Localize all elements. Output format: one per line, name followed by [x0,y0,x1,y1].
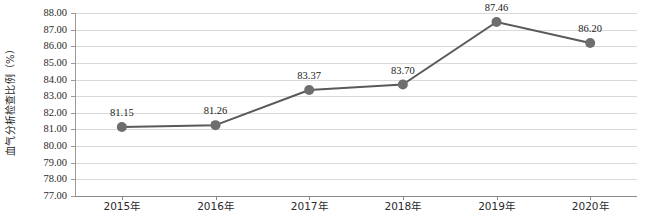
data-point-label: 81.26 [204,106,228,117]
y-tick-label: 84.00 [43,74,67,85]
y-tick-label: 78.00 [43,174,67,185]
data-point-marker [304,85,314,95]
x-tick-label: 2018年 [384,201,421,212]
y-axis-title: 血气分析检查比例（%） [0,0,22,200]
data-point-label: 83.70 [391,65,415,76]
plot-area: 81.1581.2683.3783.7087.4686.20 [75,13,637,196]
series-markers [117,17,595,132]
x-tick-label: 2020年 [572,201,609,212]
data-point-marker [398,80,408,90]
x-tick-label: 2019年 [478,201,515,212]
series-polyline [122,22,590,127]
x-tick-label: 2016年 [197,201,234,212]
data-point-marker [117,122,127,132]
data-point-marker [585,38,595,48]
y-tick-label: 82.00 [43,108,67,119]
x-tick-label: 2015年 [103,201,140,212]
y-tick-label: 86.00 [43,41,67,52]
x-axis-line [75,196,637,197]
data-point-marker [492,17,502,27]
y-tick-label: 81.00 [43,124,67,135]
data-point-label: 81.15 [110,107,134,118]
y-tick-label: 83.00 [43,91,67,102]
x-tick-label: 2017年 [291,201,328,212]
y-axis-tick-labels: 88.0087.0086.0085.0084.0083.0082.0081.00… [22,0,71,223]
data-point-label: 87.46 [485,2,509,13]
series-line-chart [75,13,637,196]
y-tick-mark [71,196,75,197]
y-tick-label: 88.00 [43,8,67,19]
x-axis-tick-labels: 2015年2016年2017年2018年2019年2020年 [75,201,637,221]
y-tick-label: 77.00 [43,191,67,202]
data-point-marker [211,120,221,130]
data-point-label: 83.37 [297,71,321,82]
y-tick-label: 85.00 [43,58,67,69]
data-point-label: 86.20 [578,23,602,34]
chart-container: 血气分析检查比例（%） 88.0087.0086.0085.0084.0083.… [0,0,646,223]
y-tick-label: 79.00 [43,157,67,168]
y-tick-label: 80.00 [43,141,67,152]
y-axis-title-text: 血气分析检查比例（%） [6,44,16,156]
y-tick-label: 87.00 [43,24,67,35]
